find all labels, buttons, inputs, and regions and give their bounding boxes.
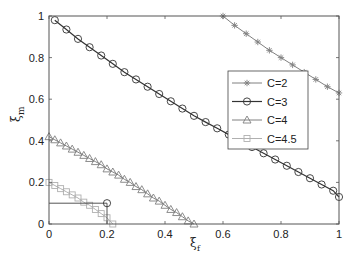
legend: C=2C=3C=4C=4.5 <box>228 71 308 149</box>
legend-label: C=3 <box>267 96 288 108</box>
star-marker-icon <box>244 80 250 86</box>
x-tick-label: 0.4 <box>157 228 172 240</box>
y-tick-label: 1 <box>38 10 44 22</box>
legend-label: C=4.5 <box>267 133 297 145</box>
y-axis-label-main: ξ <box>9 115 23 122</box>
x-tick-label: 0.8 <box>273 228 288 240</box>
x-tick-label: 0.2 <box>99 228 114 240</box>
legend-label: C=2 <box>267 77 288 89</box>
line-chart: 00.20.40.60.8100.20.40.60.81 ξ f ξ m C=2… <box>0 0 351 264</box>
star-marker-icon <box>255 39 261 45</box>
star-marker-icon <box>289 62 295 68</box>
x-axis-label-main: ξ <box>190 236 197 250</box>
y-tick-label: 0.6 <box>29 93 44 105</box>
y-tick-label: 0.2 <box>29 176 44 188</box>
star-marker-icon <box>313 76 319 82</box>
y-tick-label: 0.4 <box>29 135 44 147</box>
x-tick-label: 0 <box>46 228 52 240</box>
x-tick-label: 0.6 <box>215 228 230 240</box>
x-tick-label: 1 <box>336 228 342 240</box>
x-axis-label-sub: f <box>197 244 201 253</box>
y-tick-label: 0 <box>38 218 44 230</box>
legend-label: C=4 <box>267 114 288 126</box>
y-axis-label: ξ m <box>9 106 26 122</box>
y-axis-label-sub: m <box>16 106 26 115</box>
y-tick-label: 0.8 <box>29 52 44 64</box>
x-axis-label: ξ f <box>190 236 201 253</box>
